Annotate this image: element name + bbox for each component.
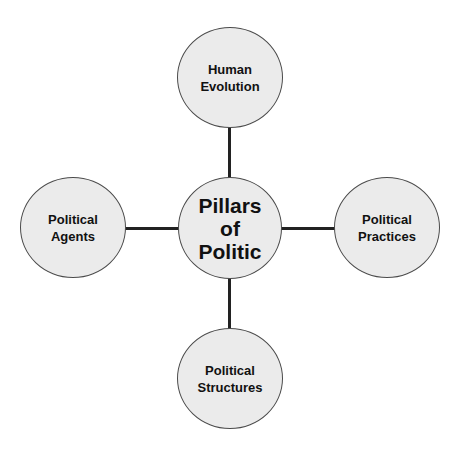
connector-left	[125, 227, 179, 230]
node-political-agents: Political Agents	[20, 177, 126, 278]
node-label-line: Structures	[197, 379, 262, 396]
hub-label-line: Politic	[198, 240, 261, 263]
hub-label-line: Pillars	[198, 194, 261, 217]
connector-bottom	[228, 278, 231, 329]
node-label-line: Political	[358, 211, 416, 228]
node-label-line: Political	[48, 211, 98, 228]
node-pillars-of-politic: Pillars of Politic	[178, 177, 282, 279]
node-label-line: Practices	[358, 228, 416, 245]
connector-top	[228, 126, 231, 179]
node-label-line: Agents	[48, 228, 98, 245]
connector-right	[281, 227, 335, 230]
hub-label-line: of	[198, 217, 261, 240]
node-label-line: Human	[200, 61, 259, 78]
node-human-evolution: Human Evolution	[177, 27, 283, 128]
node-label-line: Political	[197, 362, 262, 379]
node-political-structures: Political Structures	[177, 328, 283, 429]
node-label-line: Evolution	[200, 78, 259, 95]
node-political-practices: Political Practices	[334, 177, 440, 278]
